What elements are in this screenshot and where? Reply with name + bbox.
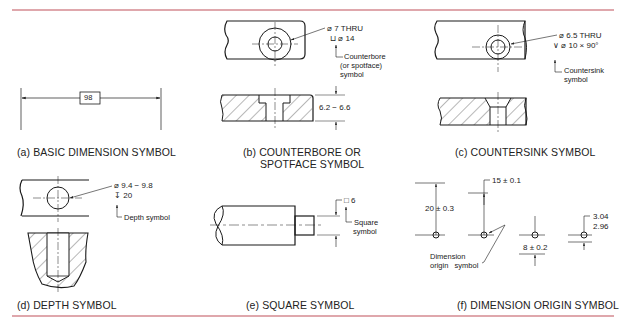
caption-counterbore-line1: (b) COUNTERBORE OR	[243, 146, 361, 158]
basic-dimension-value: 98	[84, 93, 92, 102]
caption-counterbore-line2: SPOTFACE SYMBOL	[260, 158, 364, 170]
origin-note-line1: Dimension	[430, 252, 465, 261]
counterbore-callout-line1: ⌀ 7 THRU	[327, 24, 363, 33]
panel-d-drawing	[20, 176, 122, 292]
origin-dimension-20: 20 ± 0.3	[425, 204, 454, 213]
square-note-line2: symbol	[353, 227, 377, 236]
counterbore-depth-dimension: 6.2 − 6.6	[319, 103, 350, 112]
countersink-note-line2: symbol	[564, 75, 588, 84]
depth-note: Depth symbol	[124, 213, 170, 222]
origin-dimension-8: 8 ± 0.2	[523, 243, 547, 252]
origin-note-line2: origin symbol	[430, 261, 478, 270]
square-note-line1: Square	[354, 218, 378, 227]
square-callout: □ 6	[344, 196, 356, 205]
panel-b-drawing	[221, 21, 346, 130]
depth-callout-line1: ⌀ 9.4 − 9.8	[114, 181, 153, 190]
caption-basic-dimension: (a) BASIC DIMENSION SYMBOL	[17, 146, 176, 158]
counterbore-note-line3: symbol	[340, 70, 364, 79]
caption-depth: (d) DEPTH SYMBOL	[17, 299, 117, 311]
caption-square: (e) SQUARE SYMBOL	[246, 299, 354, 311]
depth-callout-line2: ↧ 20	[114, 191, 132, 200]
countersink-callout-line2: ∨ ⌀ 10 × 90°	[553, 41, 599, 50]
countersink-callout-line1: ⌀ 6.5 THRU	[559, 31, 602, 40]
caption-dimension-origin: (f) DIMENSION ORIGIN SYMBOL	[457, 299, 619, 311]
counterbore-callout-line2: ⊔ ⌀ 14	[330, 34, 354, 43]
origin-dimension-lower-limit: 2.96	[593, 222, 609, 231]
panel-e-drawing	[210, 200, 352, 247]
panel-c-drawing	[435, 21, 562, 132]
counterbore-note-line1: Counterbore	[344, 52, 386, 61]
origin-dimension-upper-limit: 3.04	[593, 212, 609, 221]
caption-countersink: (c) COUNTERSINK SYMBOL	[455, 146, 595, 158]
origin-dimension-15: 15 ± 0.1	[492, 176, 521, 185]
counterbore-note-line2: (or spotface)	[340, 61, 382, 70]
countersink-note-line1: Countersink	[564, 66, 604, 75]
